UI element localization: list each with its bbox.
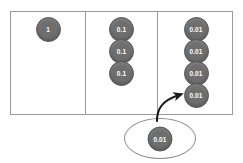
counter-stack-ones: 1 xyxy=(11,17,85,39)
place-value-table: 1 0.1 0.1 0.1 0.01 0.01 0.01 0.01 xyxy=(10,11,233,115)
counter-disc[interactable]: 0.1 xyxy=(109,61,134,86)
place-value-column-hundredths: 0.01 0.01 0.01 0.01 xyxy=(157,12,234,114)
place-value-column-tenths: 0.1 0.1 0.1 xyxy=(85,12,157,114)
counter-disc[interactable]: 1 xyxy=(36,17,61,42)
counter-stack-hundredths: 0.01 0.01 0.01 0.01 xyxy=(158,17,234,105)
place-value-column-ones: 1 xyxy=(11,12,85,114)
counter-stack-tenths: 0.1 0.1 0.1 xyxy=(86,17,157,83)
place-value-diagram: 1 0.1 0.1 0.1 0.01 0.01 0.01 0.01 0.01 xyxy=(0,0,243,163)
incoming-counter-oval: 0.01 xyxy=(124,118,196,159)
incoming-counter-disc[interactable]: 0.01 xyxy=(148,126,173,151)
counter-disc[interactable]: 0.01 xyxy=(184,83,209,108)
